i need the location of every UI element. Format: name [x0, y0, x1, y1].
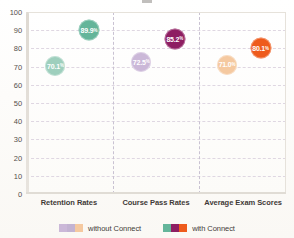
gridline-80: [26, 48, 286, 49]
y-tick-80: 80: [0, 44, 22, 53]
y-tick-10: 10: [0, 171, 22, 180]
y-tick-20: 20: [0, 153, 22, 162]
gridline-20: [26, 158, 286, 159]
value-bubble-coursepass-with: 85.2%: [164, 28, 185, 49]
legend-label-with-connect: with Connect: [192, 224, 235, 233]
category-label-retention-rates: Retention Rates: [41, 198, 97, 207]
y-axis-tick-labels: 100 90 80 70 60 50 40 30 20 10 0: [0, 12, 24, 194]
value-bubble-examscores-without-text: 71.0: [219, 61, 232, 68]
plot-area: 70.1% 89.9% 72.5% 85.2% 71.0% 80.1%: [26, 12, 286, 194]
legend-item-without-connect[interactable]: without Connect: [59, 224, 141, 233]
category-label-average-exam-scores: Average Exam Scores: [204, 198, 282, 207]
value-bubble-examscores-with: 80.1%: [250, 38, 271, 59]
y-tick-70: 70: [0, 62, 22, 71]
y-tick-100: 100: [0, 8, 22, 17]
y-tick-90: 90: [0, 26, 22, 35]
gridline-90: [26, 30, 286, 31]
gridline-30: [26, 139, 286, 140]
value-bubble-retention-without-text: 70.1: [47, 63, 60, 70]
value-bubble-examscores-without: 71.0%: [217, 55, 237, 75]
y-tick-0: 0: [0, 190, 22, 199]
value-bubble-retention-with-text: 89.9: [81, 27, 94, 34]
value-bubble-retention-without: 70.1%: [45, 56, 65, 76]
y-axis-line: [26, 12, 29, 194]
plot-inner: 70.1% 89.9% 72.5% 85.2% 71.0% 80.1%: [26, 12, 286, 194]
gridline-10: [26, 176, 286, 177]
value-bubble-coursepass-without: 72.5%: [131, 52, 151, 72]
value-bubble-retention-with: 89.9%: [78, 20, 99, 41]
y-tick-30: 30: [0, 135, 22, 144]
legend-label-without-connect: without Connect: [88, 224, 141, 233]
cropped-title-artifact: [142, 0, 152, 3]
category-label-course-pass-rates: Course Pass Rates: [122, 198, 189, 207]
group-separator-2: [199, 12, 200, 194]
chart-container: 100 90 80 70 60 50 40 30 20 10 0: [0, 0, 294, 238]
x-axis-line: [26, 192, 286, 194]
legend-item-with-connect[interactable]: with Connect: [163, 224, 235, 233]
chart-legend: without Connect with Connect: [0, 221, 294, 235]
gridline-50: [26, 103, 286, 104]
value-bubble-coursepass-without-text: 72.5: [133, 59, 146, 66]
value-bubble-examscores-with-text: 80.1: [252, 45, 265, 52]
group-separator-1: [113, 12, 114, 194]
value-bubble-coursepass-with-text: 85.2: [166, 35, 179, 42]
y-tick-40: 40: [0, 117, 22, 126]
legend-swatch-with-connect: [163, 224, 187, 232]
y-tick-60: 60: [0, 80, 22, 89]
axis-right: [285, 12, 286, 194]
y-tick-50: 50: [0, 99, 22, 108]
legend-swatch-without-connect: [59, 224, 83, 232]
axis-top: [26, 12, 286, 13]
x-axis-category-labels: Retention Rates Course Pass Rates Averag…: [26, 198, 286, 212]
gridline-40: [26, 121, 286, 122]
gridline-60: [26, 85, 286, 86]
